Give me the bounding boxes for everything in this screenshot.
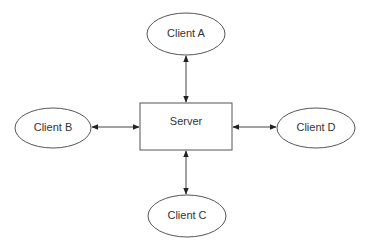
client-d-label: Client D bbox=[276, 121, 356, 133]
client-a-label: Client A bbox=[146, 27, 226, 39]
client-c-label: Client C bbox=[147, 209, 227, 221]
server-label: Server bbox=[140, 115, 232, 127]
client-b-label: Client B bbox=[13, 121, 93, 133]
